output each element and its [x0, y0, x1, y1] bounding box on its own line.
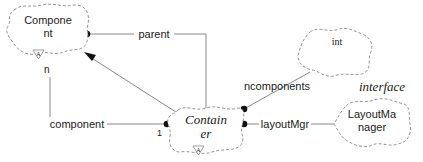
- label-ncomponents: ncomponents: [244, 80, 311, 92]
- class-name-line2: nager: [358, 121, 386, 133]
- multiplicity-n: n: [44, 64, 50, 75]
- relationship-ncomponents: [241, 72, 310, 112]
- class-name-line1: Contain: [185, 112, 227, 127]
- label-component: component: [50, 118, 104, 130]
- class-diagram: Compone nt A Contain er A int interface …: [0, 0, 423, 162]
- svg-text:A: A: [196, 147, 201, 153]
- class-name-line1: Compone: [24, 14, 72, 26]
- class-container[interactable]: Contain er A: [168, 107, 244, 155]
- relationship-inheritance: [84, 52, 179, 114]
- label-parent: parent: [138, 28, 169, 40]
- class-name-line2: er: [201, 126, 213, 141]
- class-layoutmanager[interactable]: LayoutMa nager: [334, 99, 411, 147]
- class-name-line1: LayoutMa: [348, 108, 397, 120]
- label-layoutmgr: layoutMgr: [261, 118, 310, 130]
- stereotype-label: interface: [359, 79, 405, 94]
- abstract-adornment-icon: A: [33, 50, 44, 59]
- class-component[interactable]: Compone nt A: [7, 4, 89, 59]
- class-name-line2: nt: [43, 27, 52, 39]
- class-name-line1: int: [332, 36, 343, 47]
- relationship-parent: [84, 31, 206, 115]
- multiplicity-1: 1: [157, 128, 162, 138]
- class-int[interactable]: int: [298, 28, 372, 76]
- svg-text:A: A: [36, 51, 41, 57]
